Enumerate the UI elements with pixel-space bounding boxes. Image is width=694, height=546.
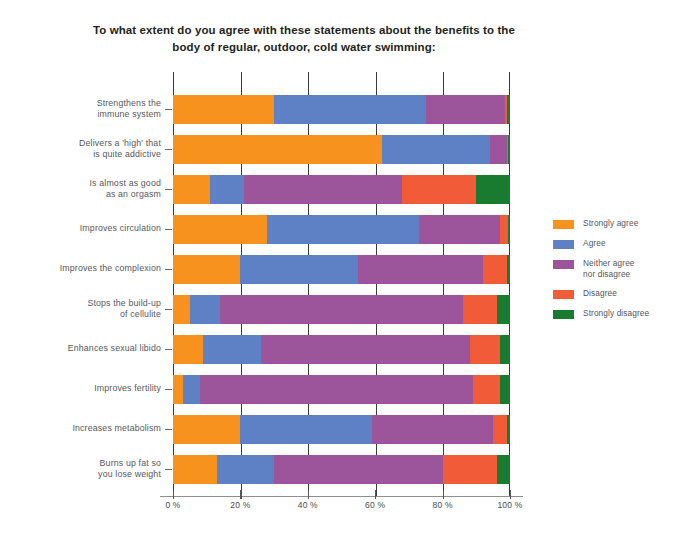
bar-row[interactable] bbox=[173, 375, 510, 404]
x-tick-0 bbox=[173, 490, 174, 499]
bar-segment-3[interactable] bbox=[483, 255, 507, 284]
legend-swatch-0 bbox=[553, 220, 574, 229]
legend-swatch-2 bbox=[553, 260, 574, 269]
bar-segment-4[interactable] bbox=[507, 255, 510, 284]
category-label-line: immune system bbox=[21, 109, 161, 121]
bar-row[interactable] bbox=[173, 135, 510, 164]
bar-row[interactable] bbox=[173, 95, 510, 124]
bar-segment-0[interactable] bbox=[173, 335, 203, 364]
bar-row[interactable] bbox=[173, 255, 510, 284]
legend-item[interactable]: Strongly agree bbox=[553, 218, 693, 229]
legend-swatch-3 bbox=[553, 290, 574, 299]
bar-segment-2[interactable] bbox=[426, 95, 505, 124]
x-tick-label-80: 80 % bbox=[420, 500, 466, 510]
legend: Strongly agreeAgreeNeither agreenor disa… bbox=[553, 218, 693, 328]
bar-segment-4[interactable] bbox=[497, 455, 510, 484]
bar-segment-3[interactable] bbox=[500, 215, 508, 244]
category-label-line: is quite addictive bbox=[21, 149, 161, 161]
category-label: Delivers a 'high' thatis quite addictive bbox=[21, 138, 161, 161]
legend-label-line: Disagree bbox=[583, 288, 617, 299]
bar-segment-2[interactable] bbox=[358, 255, 483, 284]
bar-segment-2[interactable] bbox=[261, 335, 470, 364]
bar-row[interactable] bbox=[173, 175, 510, 204]
bar-row[interactable] bbox=[173, 295, 510, 324]
legend-item[interactable]: Disagree bbox=[553, 288, 693, 299]
bar-segment-3[interactable] bbox=[402, 175, 476, 204]
y-tick bbox=[165, 109, 172, 110]
bar-segment-2[interactable] bbox=[419, 215, 500, 244]
category-label-line: Delivers a 'high' that bbox=[21, 138, 161, 150]
category-label-line: Improves fertility bbox=[21, 383, 161, 395]
bar-row[interactable] bbox=[173, 335, 510, 364]
legend-swatch-4 bbox=[553, 310, 574, 319]
bar-row[interactable] bbox=[173, 415, 510, 444]
category-label: Is almost as goodas an orgasm bbox=[21, 178, 161, 201]
y-tick bbox=[165, 229, 172, 230]
y-tick bbox=[165, 389, 172, 390]
bar-segment-1[interactable] bbox=[203, 335, 260, 364]
bar-segment-1[interactable] bbox=[382, 135, 490, 164]
bar-row[interactable] bbox=[173, 455, 510, 484]
category-label: Strengthens theimmune system bbox=[21, 98, 161, 121]
bar-segment-2[interactable] bbox=[220, 295, 463, 324]
y-tick bbox=[165, 149, 172, 150]
bar-segment-2[interactable] bbox=[274, 455, 443, 484]
bar-segment-0[interactable] bbox=[173, 135, 382, 164]
x-tick-label-20: 20 % bbox=[217, 500, 263, 510]
legend-item[interactable]: Neither agreenor disagree bbox=[553, 258, 693, 279]
bar-segment-4[interactable] bbox=[497, 295, 510, 324]
legend-item[interactable]: Agree bbox=[553, 238, 693, 249]
bar-segment-4[interactable] bbox=[507, 415, 510, 444]
bar-segment-2[interactable] bbox=[372, 415, 493, 444]
x-tick-20 bbox=[240, 490, 241, 499]
legend-label-line: Agree bbox=[583, 238, 606, 249]
bar-segment-2[interactable] bbox=[200, 375, 473, 404]
bar-segment-2[interactable] bbox=[490, 135, 507, 164]
category-label: Improves the complexion bbox=[21, 263, 161, 275]
legend-label-line: nor disagree bbox=[583, 269, 635, 280]
y-tick bbox=[165, 309, 172, 310]
category-label: Improves circulation bbox=[21, 223, 161, 235]
bar-segment-4[interactable] bbox=[508, 135, 510, 164]
bar-segment-1[interactable] bbox=[210, 175, 244, 204]
bar-segment-0[interactable] bbox=[173, 255, 240, 284]
bar-segment-1[interactable] bbox=[183, 375, 200, 404]
category-label-line: Burns up fat so bbox=[21, 458, 161, 470]
x-tick-60 bbox=[375, 490, 376, 499]
category-label-line: as an orgasm bbox=[21, 189, 161, 201]
bar-row[interactable] bbox=[173, 215, 510, 244]
bar-segment-4[interactable] bbox=[500, 375, 510, 404]
bar-segment-0[interactable] bbox=[173, 95, 274, 124]
y-tick bbox=[165, 189, 172, 190]
y-tick bbox=[165, 349, 172, 350]
category-label: Burns up fat soyou lose weight bbox=[21, 458, 161, 481]
bar-segment-2[interactable] bbox=[244, 175, 402, 204]
bar-segment-1[interactable] bbox=[240, 255, 358, 284]
bar-segment-1[interactable] bbox=[190, 295, 220, 324]
bar-segment-1[interactable] bbox=[217, 455, 274, 484]
bar-segment-1[interactable] bbox=[274, 95, 426, 124]
bar-segment-4[interactable] bbox=[500, 335, 510, 364]
y-tick bbox=[165, 429, 172, 430]
chart-title: To what extent do you agree with these s… bbox=[34, 22, 574, 56]
bar-segment-3[interactable] bbox=[470, 335, 500, 364]
bar-segment-0[interactable] bbox=[173, 175, 210, 204]
x-tick-80 bbox=[443, 490, 444, 499]
legend-item[interactable]: Strongly disagree bbox=[553, 308, 693, 319]
bar-segment-0[interactable] bbox=[173, 455, 217, 484]
bar-segment-3[interactable] bbox=[463, 295, 497, 324]
bar-segment-0[interactable] bbox=[173, 415, 240, 444]
bar-segment-4[interactable] bbox=[476, 175, 510, 204]
category-label: Enhances sexual libido bbox=[21, 343, 161, 355]
bar-segment-3[interactable] bbox=[443, 455, 497, 484]
bar-segment-1[interactable] bbox=[267, 215, 419, 244]
bar-segment-1[interactable] bbox=[240, 415, 371, 444]
bar-segment-0[interactable] bbox=[173, 295, 190, 324]
bar-segment-3[interactable] bbox=[493, 415, 506, 444]
bar-segment-4[interactable] bbox=[507, 95, 510, 124]
bar-segment-0[interactable] bbox=[173, 215, 267, 244]
y-tick bbox=[165, 269, 172, 270]
bar-segment-0[interactable] bbox=[173, 375, 183, 404]
bar-segment-3[interactable] bbox=[473, 375, 500, 404]
bar-segment-4[interactable] bbox=[508, 215, 510, 244]
